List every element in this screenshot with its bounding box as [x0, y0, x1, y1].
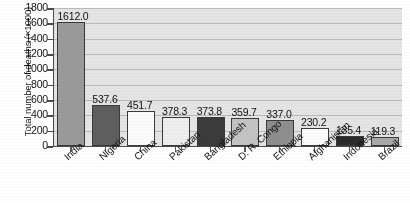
bar-value-label: 451.7	[127, 99, 152, 111]
bar-value-label: 378.3	[162, 105, 187, 117]
gridline	[54, 54, 402, 55]
bar-chart-figure: Total number of deaths (×1000) 180016001…	[0, 0, 410, 203]
gridline	[54, 85, 402, 86]
bar-value-label: 1612.0	[57, 10, 88, 22]
bar-india[interactable]	[57, 22, 85, 146]
y-axis-tick-label: 1000	[2, 62, 48, 74]
bar-value-label: 373.8	[197, 105, 222, 117]
gridline	[54, 39, 402, 40]
bar-value-label: 337.0	[266, 108, 291, 120]
y-axis-tick-label: 400	[2, 108, 48, 120]
y-axis-tick-label: 1200	[2, 47, 48, 59]
y-axis-tick-label: 1600	[2, 16, 48, 28]
bar-value-label: 230.2	[301, 116, 326, 128]
gridline	[54, 69, 402, 70]
y-axis-tick-label: 600	[2, 93, 48, 105]
gridline	[54, 23, 402, 24]
y-axis-tick-label: 0	[2, 139, 48, 151]
bar-value-label: 359.7	[231, 106, 256, 118]
y-axis-tick-label: 800	[2, 78, 48, 90]
y-axis-tick-label: 200	[2, 124, 48, 136]
y-axis-tick-label: 1400	[2, 32, 48, 44]
y-axis-tick-label: 1800	[2, 1, 48, 13]
gridline	[54, 8, 402, 9]
bar-value-label: 537.6	[92, 93, 117, 105]
